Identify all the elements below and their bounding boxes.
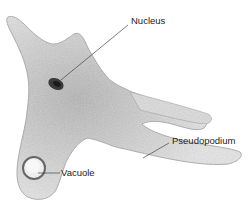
amoeba-diagram <box>0 0 248 211</box>
pseudopodium-label: Pseudopodium <box>172 135 235 146</box>
nucleus-label: Nucleus <box>131 15 165 26</box>
vacuole-label: Vacuole <box>61 167 95 178</box>
